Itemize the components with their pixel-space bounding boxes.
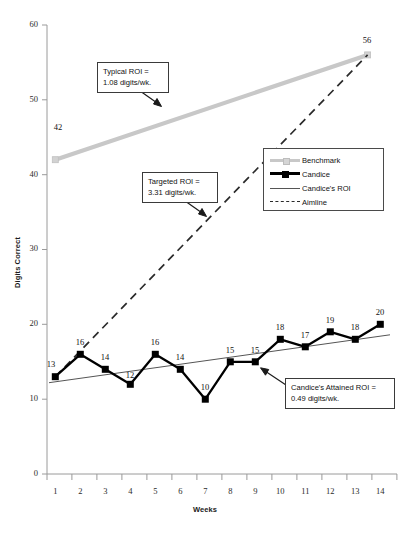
aimline-dashed-icon	[268, 196, 302, 208]
x-tick-label-10: 10	[270, 486, 290, 496]
x-tick-label-8: 8	[220, 486, 240, 496]
benchmark-point-label-start: 42	[47, 122, 69, 132]
benchmark-marker-start	[52, 157, 58, 163]
x-tick-label-14: 14	[370, 486, 390, 496]
x-tick-label-3: 3	[95, 486, 115, 496]
candice-point-label-1: 13	[40, 359, 62, 369]
candice-point-label-8: 15	[219, 345, 241, 355]
legend-item-benchmark[interactable]: Benchmark	[268, 153, 383, 167]
x-axis-title: Weeks	[0, 505, 410, 514]
x-tick-label-7: 7	[195, 486, 215, 496]
plot-area	[0, 0, 410, 536]
callout-typical-roi: Typical ROI = 1.08 digits/wk.	[97, 62, 169, 93]
candice-point-label-5: 16	[144, 337, 166, 347]
roi-trendline-icon	[268, 182, 302, 194]
x-tick-label-12: 12	[320, 486, 340, 496]
y-tick-label-60: 60	[16, 19, 38, 29]
chart-container: 0 10 20 30 40 50 60 1 2 3 4 5 6 7 8 9 10…	[0, 0, 410, 536]
legend: Benchmark Candice Candice's ROI Aimline	[263, 148, 384, 211]
benchmark-point-label-end: 56	[356, 35, 378, 45]
y-tick-marks	[42, 25, 47, 474]
callout-targeted-roi-line2: 3.31 digits/wk.	[148, 187, 212, 198]
candice-point-label-11: 17	[294, 330, 316, 340]
x-tick-label-4: 4	[120, 486, 140, 496]
legend-item-aimline[interactable]: Aimline	[268, 195, 383, 209]
candice-point-label-14: 20	[369, 307, 391, 317]
callout-attained-roi: Candice's Attained ROI = 0.49 digits/wk.	[285, 378, 395, 409]
callout-attained-roi-line1: Candice's Attained ROI =	[291, 382, 389, 393]
callout-attained-roi-line2: 0.49 digits/wk.	[291, 393, 389, 404]
candice-point-label-13: 18	[344, 322, 366, 332]
x-tick-label-13: 13	[345, 486, 365, 496]
legend-label-aimline: Aimline	[302, 198, 327, 207]
candice-point-label-9: 15	[244, 345, 266, 355]
candice-point-label-2: 16	[69, 337, 91, 347]
x-tick-label-2: 2	[70, 486, 90, 496]
y-axis-title: Digits Correct	[13, 228, 22, 298]
legend-label-candice-roi: Candice's ROI	[302, 184, 351, 193]
callout-typical-roi-line2: 1.08 digits/wk.	[103, 77, 163, 88]
series-aimline	[55, 55, 367, 377]
candice-point-label-6: 14	[169, 352, 191, 362]
legend-item-candice-roi[interactable]: Candice's ROI	[268, 181, 383, 195]
legend-label-benchmark: Benchmark	[302, 156, 340, 165]
x-tick-label-11: 11	[295, 486, 315, 496]
callout-typical-roi-line1: Typical ROI =	[103, 66, 163, 77]
arrow-attained-roi	[261, 368, 287, 385]
callout-targeted-roi-line1: Targeted ROI =	[148, 176, 212, 187]
benchmark-line-icon	[268, 154, 302, 166]
x-tick-label-6: 6	[170, 486, 190, 496]
candice-point-label-4: 12	[119, 370, 141, 380]
candice-point-label-10: 18	[269, 322, 291, 332]
candice-point-label-3: 14	[94, 352, 116, 362]
y-tick-label-20: 20	[16, 318, 38, 328]
y-tick-label-10: 10	[16, 393, 38, 403]
callout-targeted-roi: Targeted ROI = 3.31 digits/wk.	[142, 172, 218, 203]
candice-line-icon	[268, 168, 302, 180]
x-tick-label-1: 1	[45, 486, 65, 496]
x-tick-marks	[47, 474, 397, 480]
candice-point-label-7: 10	[194, 382, 216, 392]
candice-point-label-12: 19	[319, 315, 341, 325]
legend-label-candice: Candice	[302, 170, 330, 179]
y-tick-label-40: 40	[16, 169, 38, 179]
x-tick-label-5: 5	[145, 486, 165, 496]
y-tick-label-50: 50	[16, 94, 38, 104]
legend-item-candice[interactable]: Candice	[268, 167, 383, 181]
y-tick-label-0: 0	[16, 468, 38, 478]
x-tick-label-9: 9	[245, 486, 265, 496]
